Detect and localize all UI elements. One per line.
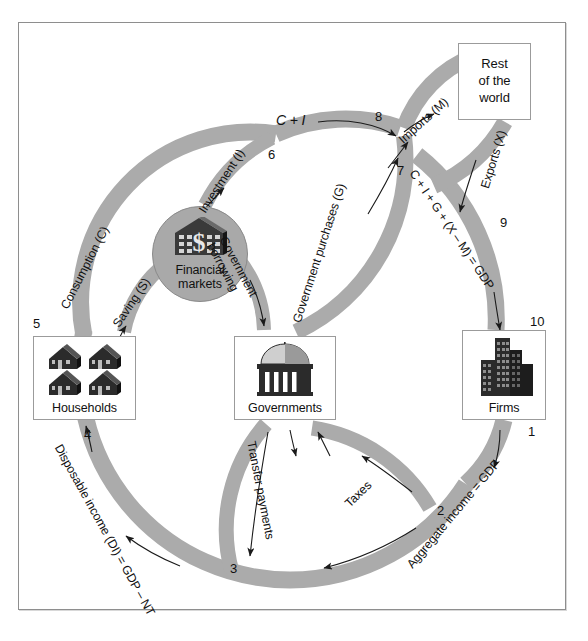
band-government-purchases [296, 136, 406, 332]
diagram-page: Rest of the world [0, 0, 588, 641]
houses-icon [34, 337, 135, 401]
band-taxes [312, 428, 430, 508]
flow-label-c-plus-i: C + I [276, 112, 305, 128]
step-number-5: 5 [33, 316, 40, 331]
row-line3: world [479, 90, 510, 105]
node-rest-of-world-label: Rest of the world [479, 56, 511, 107]
step-number-3: 3 [230, 561, 237, 576]
node-firms[interactable]: Firms [462, 330, 546, 420]
node-households[interactable]: Households [33, 336, 136, 420]
arrow-governments-down [290, 430, 296, 456]
step-number-8: 8 [375, 109, 382, 124]
row-line2: of the [479, 73, 511, 88]
step-number-9: 9 [500, 215, 507, 230]
step-number-7: 7 [397, 163, 404, 178]
node-governments[interactable]: Governments [234, 336, 336, 420]
svg-text:$: $ [193, 228, 206, 257]
step-number-2: 2 [437, 503, 444, 518]
step-number-10: 10 [530, 314, 544, 329]
node-rest-of-world[interactable]: Rest of the world [458, 43, 531, 120]
node-firms-label: Firms [489, 401, 520, 415]
step-number-4: 4 [84, 427, 91, 442]
node-households-label: Households [52, 401, 117, 415]
step-number-6: 6 [268, 147, 275, 162]
office-buildings-icon [463, 331, 545, 401]
capitol-dome-icon [235, 337, 335, 401]
fin-line2: markets [178, 277, 222, 291]
step-number-1: 1 [528, 424, 535, 439]
row-line1: Rest [481, 56, 507, 71]
node-governments-label: Governments [248, 401, 322, 415]
